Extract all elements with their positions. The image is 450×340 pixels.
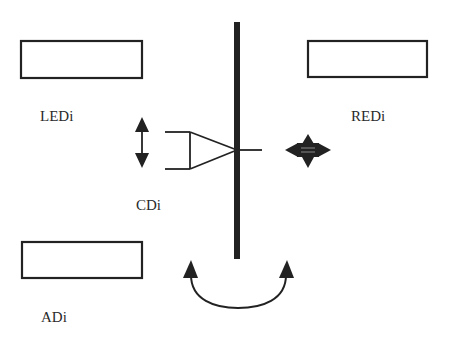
red-label: REDi [351,108,385,125]
four-way-arrow-icon [285,134,331,168]
rotation-arrow-icon [183,260,294,308]
center-bar [234,22,240,259]
red-box [308,41,427,77]
vertical-double-arrow-icon [135,117,149,168]
led-label: LEDi [40,108,73,125]
ad-label: ADi [41,309,67,326]
ad-box [22,242,142,278]
cd-probe [165,132,262,169]
led-box [21,41,142,78]
diagram-canvas [0,0,450,340]
cd-label: CDi [136,197,161,214]
